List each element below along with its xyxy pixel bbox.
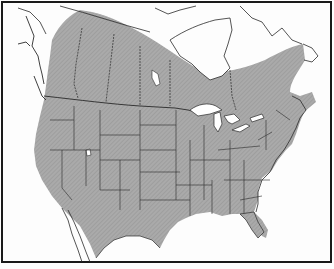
north-america-map — [0, 0, 334, 269]
range-map — [0, 0, 334, 269]
